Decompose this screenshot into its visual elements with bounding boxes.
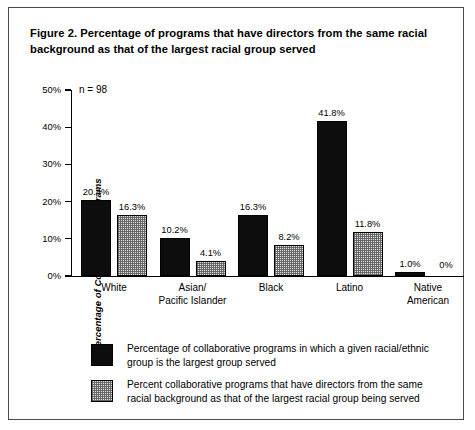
bar-value-label-0-0: 20.4% [74, 187, 118, 197]
bar-value-label-1-0: 16.3% [110, 202, 154, 212]
bar-0-3 [317, 121, 347, 276]
category-label-1-line1: Pacific Islander [159, 295, 227, 306]
category-label-3-line0: Latino [336, 282, 363, 293]
bar-1-2 [274, 245, 304, 276]
bar-1-0 [117, 215, 147, 276]
y-tick-50% [65, 89, 71, 90]
legend-label-0: Percentage of collaborative programs in … [127, 342, 452, 370]
category-label-2-line0: Black [259, 282, 283, 293]
y-tick-label-10%: 10% [29, 233, 61, 244]
y-tick-20% [65, 201, 71, 202]
legend-swatch-stippled-gray [91, 380, 113, 402]
bar-value-label-1-2: 8.2% [267, 232, 311, 242]
figure-title: Figure 2. Percentage of programs that ha… [30, 25, 445, 57]
y-tick-label-0%: 0% [29, 270, 61, 281]
category-label-0-line0: White [101, 282, 127, 293]
y-tick-label-30%: 30% [29, 158, 61, 169]
bar-0-2 [238, 215, 268, 276]
y-tick-label-40%: 40% [29, 121, 61, 132]
legend-swatch-solid-black [91, 344, 113, 366]
bar-value-label-0-2: 16.3% [231, 202, 275, 212]
legend-label-1-line2: racial background as that of the largest… [127, 393, 420, 404]
bar-value-label-1-3: 11.8% [346, 219, 390, 229]
y-tick-30% [65, 164, 71, 165]
legend-label-1: Percent collaborative programs that have… [127, 378, 452, 406]
legend-label-0-line2: group is the largest group served [127, 357, 276, 368]
category-label-4: NativeAmerican [380, 282, 475, 307]
category-label-4-line1: American [407, 295, 449, 306]
bar-0-1 [160, 238, 190, 276]
y-tick-0% [65, 275, 71, 276]
category-label-4-line0: Native [414, 282, 442, 293]
y-tick-label-20%: 20% [29, 196, 61, 207]
bar-0-0 [81, 200, 111, 276]
y-tick-40% [65, 127, 71, 128]
category-label-1-line0: Asian/ [179, 282, 207, 293]
bar-value-label-0-1: 10.2% [153, 225, 197, 235]
x-axis-line [71, 276, 464, 277]
bar-value-label-1-4: 0% [424, 260, 468, 270]
bar-0-4 [395, 272, 425, 276]
legend-label-1-line1: Percent collaborative programs that have… [127, 379, 423, 390]
legend-label-0-line1: Percentage of collaborative programs in … [127, 343, 429, 354]
figure-frame: Figure 2. Percentage of programs that ha… [8, 7, 464, 420]
bar-1-3 [353, 232, 383, 276]
bar-value-label-0-3: 41.8% [310, 108, 354, 118]
y-tick-label-50%: 50% [29, 84, 61, 95]
bar-1-1 [196, 261, 226, 276]
y-tick-10% [65, 238, 71, 239]
bar-value-label-1-1: 4.1% [189, 248, 233, 258]
